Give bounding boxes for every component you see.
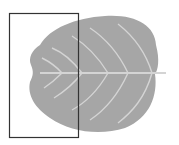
leaf-diagram: [0, 0, 179, 145]
